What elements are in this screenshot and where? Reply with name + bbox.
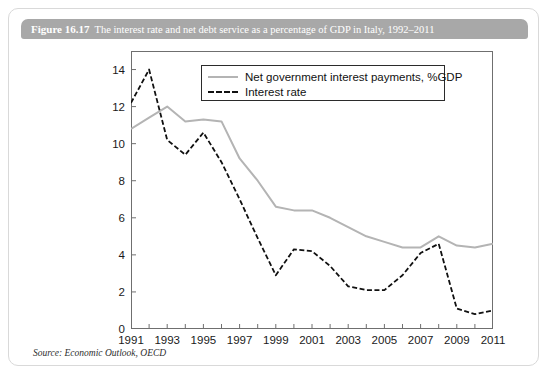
y-axis-tick-label: 8: [103, 175, 125, 187]
y-axis-tick-label: 2: [103, 286, 125, 298]
series-line: [131, 70, 493, 315]
series-line: [131, 107, 493, 248]
x-axis-tick-label: 1991: [114, 334, 148, 346]
y-axis-tick-label: 6: [103, 212, 125, 224]
legend-item-net-interest-payments: Net government interest payments, %GDP: [208, 69, 438, 84]
figure-card: Figure 16.17 The interest rate and net d…: [8, 8, 539, 366]
y-axis-tick-label: 10: [103, 138, 125, 150]
x-axis-tick-label: 2011: [476, 334, 510, 346]
source-note: Source: Economic Outlook, OECD: [33, 348, 166, 358]
legend-line-gray-icon: [208, 76, 238, 78]
legend-line-dashed-icon: [208, 91, 238, 93]
x-axis-tick-label: 2003: [331, 334, 365, 346]
chart-legend: Net government interest payments, %GDP I…: [201, 65, 445, 101]
x-axis-tick-label: 1993: [150, 334, 184, 346]
legend-label-net-interest-payments: Net government interest payments, %GDP: [245, 71, 462, 83]
x-axis-tick-label: 2007: [404, 334, 438, 346]
y-axis-tick-label: 14: [103, 64, 125, 76]
x-axis-tick-label: 2005: [367, 334, 401, 346]
y-axis-tick-label: 4: [103, 249, 125, 261]
figure-number: Figure 16.17: [31, 23, 89, 35]
x-axis-tick-label: 2009: [440, 334, 474, 346]
y-axis-tick-label: 12: [103, 101, 125, 113]
x-axis-tick-label: 1997: [223, 334, 257, 346]
figure-title: The interest rate and net debt service a…: [94, 24, 434, 35]
x-axis-tick-label: 1999: [259, 334, 293, 346]
x-axis-tick-label: 1995: [186, 334, 220, 346]
x-axis-tick-label: 2001: [295, 334, 329, 346]
chart-plot-area: Net government interest payments, %GDP I…: [131, 51, 493, 329]
legend-label-interest-rate: Interest rate: [245, 86, 306, 98]
legend-item-interest-rate: Interest rate: [208, 84, 438, 99]
figure-header-bar: Figure 16.17 The interest rate and net d…: [21, 19, 528, 39]
